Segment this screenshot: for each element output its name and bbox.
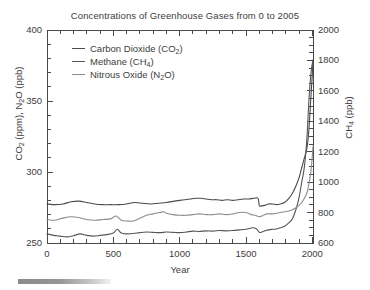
y-right-tick-label: 1400 <box>318 115 339 126</box>
legend-label-n2o: Nitrous Oxide (N2O) <box>90 69 175 81</box>
y-left-tick-label: 350 <box>0 95 42 106</box>
y-axis-left-label: CO2 (ppm), N2O (ppb) <box>13 54 24 174</box>
series-line-methane-ch4 <box>47 60 313 236</box>
x-tick-label: 1500 <box>226 248 266 259</box>
legend-label-co2: Carbon Dioxide (CO2) <box>90 43 183 55</box>
y-right-tick-label: 1000 <box>318 176 339 187</box>
chart-legend: Carbon Dioxide (CO2) Methane (CH4) Nitro… <box>72 42 183 81</box>
x-tick-label: 2000 <box>292 248 332 259</box>
x-tick-label: 0 <box>27 248 67 259</box>
x-tick-label: 500 <box>93 248 133 259</box>
y-axis-right-label: CH4 (ppb) <box>343 73 354 163</box>
y-right-tick-label: 1800 <box>318 54 339 65</box>
legend-item-co2: Carbon Dioxide (CO2) <box>72 42 183 55</box>
legend-item-n2o: Nitrous Oxide (N2O) <box>72 68 183 81</box>
legend-item-ch4: Methane (CH4) <box>72 55 183 68</box>
y-left-tick-label: 300 <box>0 166 42 177</box>
greenhouse-gas-figure: Concentrations of Greenhouse Gases from … <box>0 0 370 290</box>
y-left-tick-label: 250 <box>0 237 42 248</box>
y-right-tick-label: 600 <box>318 237 334 248</box>
legend-line-n2o <box>72 70 85 79</box>
x-axis-label: Year <box>47 264 313 275</box>
series-line-nitrous-oxide-n2o <box>47 146 313 221</box>
series-line-carbon-dioxide-co2 <box>47 60 313 206</box>
legend-line-ch4 <box>72 57 85 66</box>
legend-label-ch4: Methane (CH4) <box>90 56 154 68</box>
y-right-tick-label: 2000 <box>318 24 339 35</box>
x-tick-label: 1000 <box>160 248 200 259</box>
y-right-tick-label: 800 <box>318 207 334 218</box>
y-left-tick-label: 400 <box>0 24 42 35</box>
legend-line-co2 <box>72 44 85 53</box>
y-right-tick-label: 1600 <box>318 85 339 96</box>
chart-plot-area <box>0 0 370 290</box>
scale-bar <box>18 279 111 284</box>
y-right-tick-label: 1200 <box>318 146 339 157</box>
